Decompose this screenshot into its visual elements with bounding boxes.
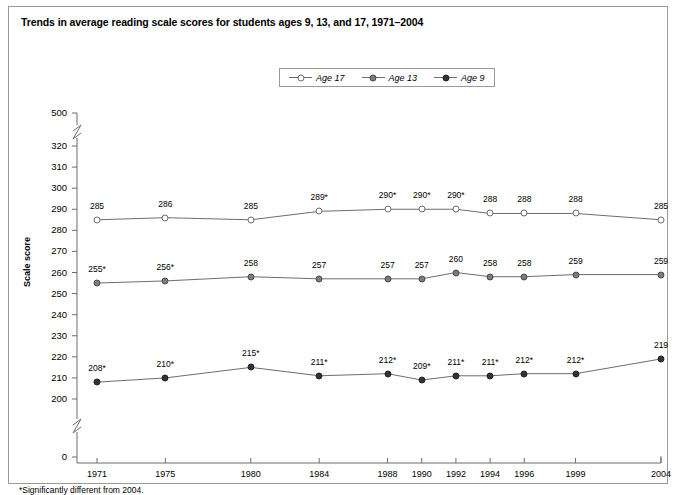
x-axis-tick-label: 1996 bbox=[514, 469, 534, 479]
data-point-marker-age-17[interactable] bbox=[94, 216, 101, 223]
data-point-label-age-13: 257 bbox=[380, 260, 394, 270]
data-point-label-age-9: 211* bbox=[482, 357, 499, 367]
y-axis-tick-label: 270 bbox=[33, 245, 67, 256]
data-point-label-age-17: 285 bbox=[654, 201, 668, 211]
data-point-label-age-13: 258 bbox=[517, 258, 531, 268]
data-point-marker-age-13[interactable] bbox=[658, 271, 665, 278]
data-point-marker-age-9[interactable] bbox=[572, 370, 579, 377]
data-point-marker-age-13[interactable] bbox=[316, 275, 323, 282]
data-point-label-age-17: 289* bbox=[310, 192, 328, 202]
data-point-label-age-13: 257 bbox=[312, 260, 326, 270]
data-point-marker-age-9[interactable] bbox=[452, 372, 459, 379]
y-axis-tick-label: 230 bbox=[33, 330, 67, 341]
data-point-label-age-9: 211* bbox=[447, 357, 464, 367]
data-point-marker-age-13[interactable] bbox=[384, 275, 391, 282]
x-axis-tick-label: 1984 bbox=[309, 469, 329, 479]
data-point-marker-age-17[interactable] bbox=[316, 208, 323, 215]
data-point-label-age-17: 290* bbox=[413, 190, 431, 200]
data-point-marker-age-17[interactable] bbox=[384, 206, 391, 213]
data-point-label-age-13: 258 bbox=[244, 258, 258, 268]
data-point-marker-age-17[interactable] bbox=[658, 216, 665, 223]
y-axis-tick-label: 240 bbox=[33, 309, 67, 320]
data-point-label-age-9: 208* bbox=[88, 363, 106, 373]
data-point-label-age-13: 260 bbox=[449, 254, 463, 264]
data-point-marker-age-9[interactable] bbox=[658, 355, 665, 362]
y-axis-tick-label: 500 bbox=[33, 107, 67, 118]
data-point-label-age-9: 210* bbox=[157, 359, 175, 369]
data-point-marker-age-17[interactable] bbox=[521, 210, 528, 217]
data-point-marker-age-13[interactable] bbox=[418, 275, 425, 282]
data-point-label-age-9: 219 bbox=[654, 340, 668, 350]
data-point-label-age-17: 288 bbox=[568, 194, 582, 204]
data-point-marker-age-9[interactable] bbox=[521, 370, 528, 377]
y-axis-tick-label: 300 bbox=[33, 182, 67, 193]
data-point-marker-age-9[interactable] bbox=[487, 372, 494, 379]
data-point-label-age-17: 290* bbox=[447, 190, 465, 200]
y-axis-tick-label: 250 bbox=[33, 288, 67, 299]
data-point-marker-age-9[interactable] bbox=[94, 379, 101, 386]
y-axis-tick-label: 280 bbox=[33, 224, 67, 235]
data-point-marker-age-17[interactable] bbox=[487, 210, 494, 217]
chart-footnote: *Significantly different from 2004. bbox=[19, 485, 144, 495]
data-point-label-age-9: 211* bbox=[311, 357, 328, 367]
x-axis-tick-label: 2004 bbox=[651, 469, 671, 479]
data-point-marker-age-17[interactable] bbox=[572, 210, 579, 217]
data-point-label-age-13: 258 bbox=[483, 258, 497, 268]
data-point-label-age-9: 212* bbox=[516, 355, 534, 365]
x-axis-tick-label: 1994 bbox=[480, 469, 500, 479]
data-point-marker-age-17[interactable] bbox=[452, 206, 459, 213]
data-point-marker-age-9[interactable] bbox=[384, 370, 391, 377]
data-point-marker-age-17[interactable] bbox=[162, 214, 169, 221]
data-point-label-age-17: 285 bbox=[90, 201, 104, 211]
x-axis-tick-label: 1980 bbox=[241, 469, 261, 479]
y-axis-tick-label: 320 bbox=[33, 140, 67, 151]
data-point-marker-age-9[interactable] bbox=[247, 364, 254, 371]
data-point-label-age-9: 215* bbox=[242, 348, 260, 358]
data-point-marker-age-9[interactable] bbox=[316, 372, 323, 379]
x-axis-tick-label: 1975 bbox=[155, 469, 175, 479]
y-axis-tick-label: 220 bbox=[33, 351, 67, 362]
plot-area: Scale score 5003203103002902802702602502… bbox=[9, 7, 669, 485]
data-point-marker-age-13[interactable] bbox=[487, 273, 494, 280]
data-point-marker-age-13[interactable] bbox=[521, 273, 528, 280]
x-axis-tick-label: 1999 bbox=[566, 469, 586, 479]
data-point-marker-age-13[interactable] bbox=[572, 271, 579, 278]
data-point-marker-age-13[interactable] bbox=[247, 273, 254, 280]
data-point-marker-age-13[interactable] bbox=[94, 280, 101, 287]
data-point-label-age-13: 255* bbox=[88, 264, 106, 274]
data-point-marker-age-13[interactable] bbox=[452, 269, 459, 276]
data-point-label-age-13: 257 bbox=[415, 260, 429, 270]
data-point-label-age-17: 285 bbox=[244, 201, 258, 211]
x-axis-tick-label: 1992 bbox=[446, 469, 466, 479]
x-axis-tick-label: 1988 bbox=[378, 469, 398, 479]
y-axis-tick-label: 290 bbox=[33, 203, 67, 214]
data-point-marker-age-13[interactable] bbox=[162, 277, 169, 284]
y-axis-tick-label: 260 bbox=[33, 267, 67, 278]
data-point-label-age-17: 288 bbox=[483, 194, 497, 204]
data-point-marker-age-17[interactable] bbox=[247, 216, 254, 223]
data-point-label-age-9: 212* bbox=[379, 355, 397, 365]
chart-figure: Trends in average reading scale scores f… bbox=[8, 6, 668, 484]
data-point-label-age-17: 288 bbox=[517, 194, 531, 204]
data-point-label-age-9: 209* bbox=[413, 361, 431, 371]
data-point-label-age-9: 212* bbox=[567, 355, 585, 365]
y-axis-tick-label: 310 bbox=[33, 161, 67, 172]
chart-canvas bbox=[9, 7, 669, 485]
x-axis-tick-label: 1971 bbox=[87, 469, 107, 479]
y-axis-tick-label: 210 bbox=[33, 372, 67, 383]
data-point-label-age-13: 259 bbox=[568, 256, 582, 266]
x-axis-tick-label: 1990 bbox=[412, 469, 432, 479]
data-point-marker-age-9[interactable] bbox=[162, 374, 169, 381]
data-point-marker-age-9[interactable] bbox=[418, 377, 425, 384]
data-point-label-age-17: 286 bbox=[158, 199, 172, 209]
data-point-label-age-17: 290* bbox=[379, 190, 397, 200]
data-point-label-age-13: 256* bbox=[157, 262, 175, 272]
y-axis-tick-label: 0 bbox=[33, 451, 67, 462]
data-point-marker-age-17[interactable] bbox=[418, 206, 425, 213]
y-axis-tick-label: 200 bbox=[33, 393, 67, 404]
data-point-label-age-13: 259 bbox=[654, 256, 668, 266]
